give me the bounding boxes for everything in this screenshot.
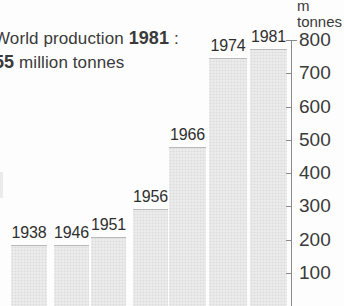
y-axis-title-line-1: m <box>297 0 342 14</box>
bar-label-1946: 1946 <box>54 224 89 242</box>
bar-1966 <box>169 147 206 306</box>
y-tick-800 <box>286 40 292 41</box>
y-axis: m tonnes 800700600500400300200100 <box>291 0 344 306</box>
y-tick-700 <box>286 73 292 74</box>
y-tick-label-200: 200 <box>299 230 331 249</box>
y-tick-label-500: 500 <box>299 130 331 149</box>
y-tick-label-100: 100 <box>299 263 331 282</box>
y-axis-title: m tonnes <box>297 0 342 30</box>
y-tick-label-300: 300 <box>299 196 331 215</box>
bar-group: 1938 <box>11 0 47 306</box>
bar-label-1966: 1966 <box>170 126 205 144</box>
bar-1938 <box>11 245 47 306</box>
bar-label-1956: 1956 <box>133 188 168 206</box>
bar-label-1938: 1938 <box>12 224 47 242</box>
bar-label-1951: 1951 <box>91 216 126 234</box>
y-tick-300 <box>286 206 292 207</box>
bar-group: 1946 <box>54 0 89 306</box>
bar-group: 1966 <box>169 0 206 306</box>
y-axis-title-line-2: tonnes <box>297 14 342 30</box>
bar-1951 <box>91 237 126 306</box>
bar-1946 <box>54 245 89 306</box>
y-tick-label-700: 700 <box>299 63 331 82</box>
y-tick-400 <box>286 173 292 174</box>
bar-group: 1951 <box>91 0 126 306</box>
y-tick-label-400: 400 <box>299 163 331 182</box>
y-tick-500 <box>286 140 292 141</box>
bars-plot-area: 1938194619511956196619741981 <box>0 0 291 306</box>
y-tick-200 <box>286 240 292 241</box>
y-tick-label-800: 800 <box>299 30 331 49</box>
bar-group: 1981 <box>250 0 287 306</box>
production-bar-chart: World production 1981 : 55 million tonne… <box>0 0 344 306</box>
bar-label-1974: 1974 <box>211 37 246 55</box>
y-tick-600 <box>286 107 292 108</box>
bar-1981 <box>250 49 287 306</box>
y-tick-100 <box>286 273 292 274</box>
bar-1974 <box>209 58 247 306</box>
bar-group: 1974 <box>209 0 247 306</box>
bar-group: 1956 <box>133 0 168 306</box>
bar-label-1981: 1981 <box>251 28 286 46</box>
y-tick-label-600: 600 <box>299 97 331 116</box>
bar-1956 <box>133 209 168 306</box>
